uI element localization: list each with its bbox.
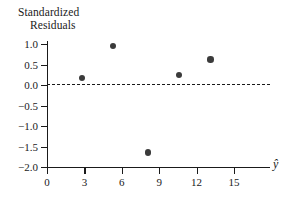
residual-plot: Standardized Residuals 1.0 0.5 0.0 −0.5 …: [0, 0, 291, 211]
x-tick-label: 9: [146, 177, 172, 188]
data-point: [145, 149, 151, 155]
x-tick-label: 3: [71, 177, 97, 188]
x-tick-label: 12: [184, 177, 210, 188]
y-tick-label: −1.5: [6, 142, 38, 153]
y-axis-title: Standardized Residuals: [18, 6, 79, 32]
data-point: [110, 43, 116, 49]
data-point: [79, 75, 85, 81]
y-tick-label: 1.0: [6, 39, 38, 50]
x-tick-mark: [84, 168, 85, 174]
y-tick-mark: [41, 147, 48, 148]
x-tick-label: 0: [34, 177, 60, 188]
y-tick-mark: [41, 106, 48, 107]
y-tick-label: −2.0: [6, 162, 38, 173]
y-axis-line: [47, 41, 48, 168]
y-tick-mark: [41, 126, 48, 127]
y-axis-title-line-2: Residuals: [18, 19, 79, 32]
x-axis-label: ŷ: [273, 158, 278, 170]
y-tick-mark: [41, 65, 48, 66]
y-tick-mark: [41, 44, 48, 45]
x-tick-mark: [47, 168, 48, 174]
data-point: [176, 72, 182, 78]
y-tick-label: 0.0: [6, 80, 38, 91]
x-tick-label: 15: [221, 177, 247, 188]
y-tick-label: 0.5: [6, 60, 38, 71]
y-tick-mark: [41, 85, 48, 86]
y-axis-title-line-1: Standardized: [18, 6, 79, 19]
x-tick-mark: [197, 168, 198, 174]
x-tick-label: 6: [109, 177, 135, 188]
x-tick-mark: [122, 168, 123, 174]
zero-reference-line: [47, 84, 270, 85]
x-tick-mark: [159, 168, 160, 174]
y-tick-label: −0.5: [6, 101, 38, 112]
x-tick-mark: [234, 168, 235, 174]
y-tick-label: −1.0: [6, 121, 38, 132]
data-point: [207, 56, 213, 62]
